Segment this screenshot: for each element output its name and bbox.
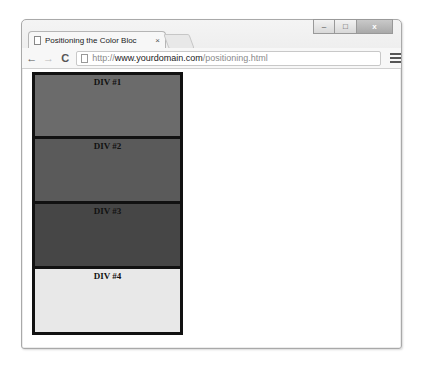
new-tab-button[interactable] <box>163 34 194 49</box>
tab-close-icon[interactable]: × <box>155 36 160 45</box>
browser-toolbar: ← → C http:// www.yourdomain.com /positi… <box>22 48 401 69</box>
page-content: DIV #1 DIV #2 DIV #3 DIV #4 <box>23 69 400 347</box>
minimize-button[interactable]: – <box>313 19 335 34</box>
window-controls: – □ x <box>313 19 393 34</box>
reload-icon[interactable]: C <box>58 52 72 64</box>
div-block-1: DIV #1 <box>32 72 183 139</box>
tab-title: Positioning the Color Blo​c <box>45 36 155 45</box>
maximize-button[interactable]: □ <box>335 19 357 34</box>
close-window-button[interactable]: x <box>357 19 393 34</box>
div-block-2: DIV #2 <box>32 136 183 204</box>
url-scheme: http:// <box>92 53 115 63</box>
browser-tab[interactable]: Positioning the Color Blo​c × <box>28 31 166 49</box>
menu-icon[interactable] <box>390 53 401 63</box>
browser-window: – □ x Positioning the Color Blo​c × ← → … <box>21 19 402 349</box>
url-domain: www.yourdomain.com <box>115 53 203 63</box>
block-label: DIV #4 <box>94 271 122 281</box>
block-label: DIV #2 <box>94 141 122 151</box>
block-label: DIV #3 <box>94 206 122 216</box>
div-block-4: DIV #4 <box>32 266 183 335</box>
address-bar[interactable]: http:// www.yourdomain.com /positioning.… <box>76 51 381 66</box>
forward-arrow-icon[interactable]: → <box>42 52 56 64</box>
page-icon <box>81 54 88 63</box>
block-label: DIV #1 <box>94 77 122 87</box>
page-icon <box>34 36 41 45</box>
div-block-3: DIV #3 <box>32 201 183 269</box>
back-arrow-icon[interactable]: ← <box>25 52 39 64</box>
url-path: /positioning.html <box>203 53 268 63</box>
